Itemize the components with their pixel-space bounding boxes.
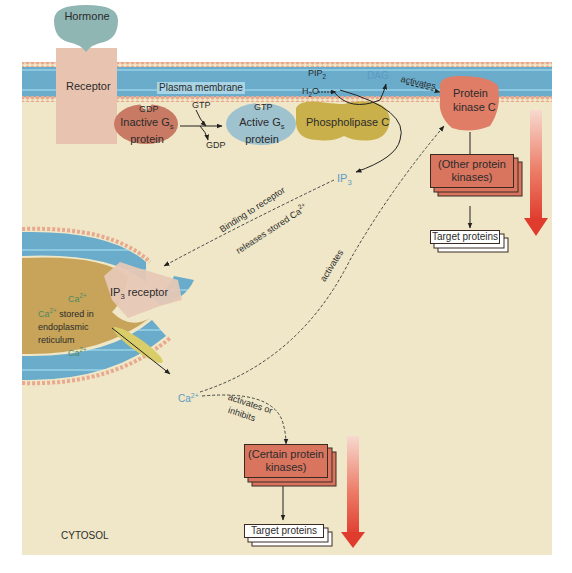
receptor-label: Receptor [66, 80, 111, 92]
receptor-shape [56, 48, 117, 144]
other-protein-kinases-box: (Other proteinkinases) [430, 154, 514, 188]
gdp-out-label: GDP [206, 140, 226, 151]
gtp-in-label: GTP [192, 100, 211, 111]
plasma-membrane-label: Plasma membrane [157, 82, 245, 94]
cytosol-label: CYTOSOL [61, 530, 109, 542]
diagram-canvas: Hormone Receptor Plasma membrane GDP Ina… [0, 0, 572, 573]
dag-label: DAG [367, 70, 389, 81]
active-g-protein-label: Active Gsprotein [232, 116, 292, 146]
target-proteins-bottom-box: Target proteins [244, 524, 324, 538]
certain-protein-kinases-box: (Certain proteinkinases) [244, 444, 328, 478]
er-ca-bottom-label: Ca2+ [68, 344, 87, 359]
ip3-label: IP3 [337, 172, 352, 189]
ip3-receptor-label: IP3 receptor [110, 286, 168, 303]
hormone-label: Hormone [62, 10, 112, 22]
phospholipase-c-label: Phospholipase C [306, 116, 389, 128]
pip2-label: PIP2 [308, 68, 326, 82]
inactive-g-protein-label: Inactive Gsprotein [118, 116, 176, 146]
cytosolic-ca-label: Ca2+ [178, 390, 199, 404]
er-ca-top-label: Ca2+ [68, 290, 87, 305]
gdp-bound-label: GDP [139, 104, 159, 115]
gtp-bound-label: GTP [254, 102, 273, 113]
h2o-label: H2O [302, 86, 319, 100]
er-stored-label: Ca2+ stored inendoplasmicreticulum [38, 304, 94, 347]
protein-kinase-c-label: Proteinkinase C [453, 86, 496, 114]
target-proteins-right-box: Target proteins [430, 230, 500, 244]
